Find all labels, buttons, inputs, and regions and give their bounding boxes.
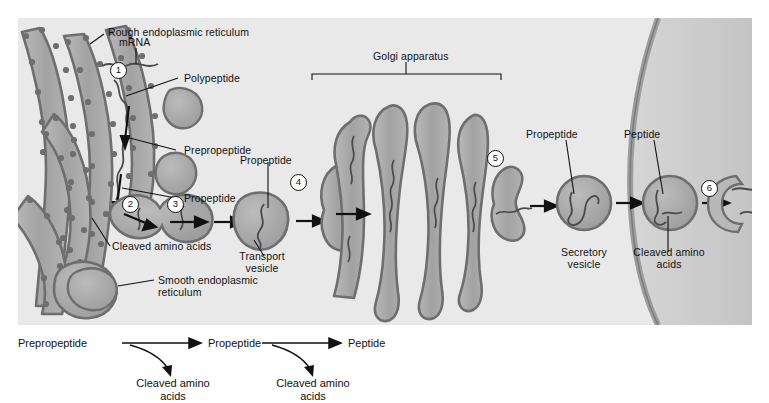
label-propeptide-er: Propeptide <box>184 192 236 204</box>
label-cleaved-amino-acids-er: Cleaved amino acids <box>112 240 211 252</box>
summary-pathway-panel: Prepropeptide Propeptide Peptide Cleaved… <box>0 325 769 396</box>
summary-arrows <box>0 325 769 396</box>
summary-node-peptide: Peptide <box>348 337 385 350</box>
label-propeptide-secretory: Propeptide <box>526 128 578 140</box>
summary-byproduct-2: Cleaved amino acids <box>268 377 358 403</box>
label-golgi-apparatus: Golgi apparatus <box>373 50 449 62</box>
label-smooth-er: Smooth endoplasmic reticulum <box>158 274 258 298</box>
label-peptide: Peptide <box>624 128 660 140</box>
summary-node-propeptide: Propeptide <box>208 337 261 350</box>
step-marker-3: 3 <box>167 196 184 213</box>
step-marker-4: 4 <box>290 174 307 191</box>
label-mrna: mRNA <box>119 36 150 48</box>
label-polypeptide: Polypeptide <box>184 72 240 84</box>
label-secretory-vesicle: Secretory vesicle <box>546 246 622 270</box>
step-marker-6: 6 <box>701 180 718 197</box>
label-transport-vesicle: Transport vesicle <box>231 250 293 274</box>
label-cleaved-amino-acids-vesicle: Cleaved amino acids <box>630 246 708 270</box>
cell-artwork <box>18 18 752 325</box>
step-marker-1: 1 <box>110 62 127 79</box>
label-propeptide-transport: Propeptide <box>240 154 292 166</box>
step-marker-5: 5 <box>487 150 504 167</box>
summary-node-prepropeptide: Prepropeptide <box>18 337 87 350</box>
cell-diagram-panel: Rough endoplasmic reticulum mRNA Polypep… <box>18 18 752 325</box>
step-marker-2: 2 <box>122 196 139 213</box>
summary-byproduct-1: Cleaved amino acids <box>128 377 218 403</box>
